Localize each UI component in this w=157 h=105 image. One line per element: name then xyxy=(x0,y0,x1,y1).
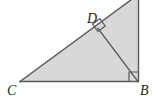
vertex-label-d: D xyxy=(87,12,97,26)
vertex-label-c: C xyxy=(7,84,16,98)
triangle-fill xyxy=(20,0,139,82)
geometry-diagram-svg xyxy=(0,0,157,105)
vertex-label-b: B xyxy=(140,84,149,98)
geometry-figure: C B D xyxy=(0,0,157,105)
